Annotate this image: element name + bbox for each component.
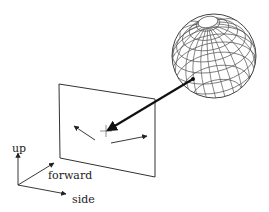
up-label: up [12, 143, 26, 154]
plane-center-mark [100, 125, 112, 137]
image-plane [59, 84, 155, 177]
side-label: side [72, 194, 95, 205]
view-direction-arrow [108, 77, 195, 130]
side-axis-arrow-icon [18, 185, 66, 194]
plane-arrow-right-icon [111, 136, 147, 143]
wireframe-sphere [166, 14, 261, 113]
plane-arrow-left-icon [74, 126, 95, 140]
diagram-canvas: up forward side [0, 0, 269, 212]
forward-label: forward [48, 170, 92, 181]
